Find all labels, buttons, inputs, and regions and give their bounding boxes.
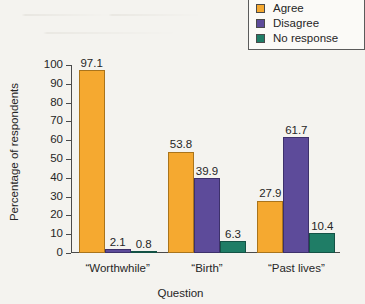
bar-value-label: 27.9 (259, 188, 281, 200)
y-tick-60 (66, 140, 71, 141)
y-tick-40 (66, 178, 71, 179)
bar-value-label: 39.9 (196, 166, 218, 178)
y-tick-10 (66, 234, 71, 235)
legend-label-no-response: No response (273, 33, 338, 45)
bar: 27.9 (257, 201, 283, 253)
legend-label-disagree: Disagree (273, 18, 319, 30)
legend-item-agree: Agree (249, 1, 364, 16)
bar: 10.4 (309, 233, 335, 253)
bar-value-label: 53.8 (170, 139, 192, 151)
bar-value-label: 10.4 (311, 221, 333, 233)
y-tick-label-70: 70 (50, 116, 63, 128)
legend-swatch-no-response (256, 34, 265, 43)
bar: 6.3 (220, 241, 246, 253)
y-tick-label-10: 10 (50, 228, 63, 240)
bar: 97.1 (79, 70, 105, 253)
y-tick-label-80: 80 (50, 97, 63, 109)
x-tick-label: “Worthwhile” (85, 262, 149, 274)
y-tick-50 (66, 159, 71, 160)
bar: 39.9 (194, 178, 220, 253)
legend-label-agree: Agree (273, 3, 304, 15)
bar: 2.1 (105, 249, 131, 253)
y-tick-80 (66, 103, 71, 104)
y-tick-100 (66, 65, 71, 66)
bar: 61.7 (283, 137, 309, 253)
legend-item-disagree: Disagree (249, 16, 364, 31)
bar-value-label: 61.7 (285, 125, 307, 137)
y-tick-30 (66, 197, 71, 198)
y-tick-90 (66, 84, 71, 85)
legend-item-no-response: No response (249, 31, 364, 46)
bar-group: 53.839.96.3“Birth” (168, 65, 246, 253)
bar-group: 97.12.10.8“Worthwhile” (79, 65, 157, 253)
legend-swatch-agree (256, 4, 265, 13)
bar-group: 27.961.710.4“Past lives” (257, 65, 335, 253)
chart-legend: Agree Disagree No response (248, 0, 365, 50)
y-tick-label-50: 50 (50, 153, 63, 165)
x-axis-title: Question (0, 287, 361, 299)
y-axis-title: Percentage of respondents (8, 83, 20, 221)
bar: 0.8 (131, 251, 157, 253)
bar-value-label: 2.1 (110, 237, 126, 249)
y-tick-label-100: 100 (44, 59, 63, 71)
x-tick-label: “Birth” (191, 262, 222, 274)
plot-area: 0102030405060708090100 97.12.10.8“Worthw… (71, 65, 339, 253)
bar-value-label: 97.1 (80, 58, 102, 70)
y-tick-label-0: 0 (57, 247, 63, 259)
y-tick-label-40: 40 (50, 172, 63, 184)
y-tick-label-30: 30 (50, 191, 63, 203)
y-tick-label-60: 60 (50, 134, 63, 146)
legend-swatch-disagree (256, 19, 265, 28)
x-tick-label: “Past lives” (268, 262, 325, 274)
y-tick-20 (66, 215, 71, 216)
bar-value-label: 6.3 (225, 229, 241, 241)
bar-value-label: 0.8 (136, 239, 152, 251)
y-tick-70 (66, 121, 71, 122)
y-axis-line (71, 65, 72, 253)
y-tick-label-20: 20 (50, 210, 63, 222)
y-tick-0 (66, 253, 71, 254)
y-tick-label-90: 90 (50, 78, 63, 90)
bar: 53.8 (168, 152, 194, 253)
